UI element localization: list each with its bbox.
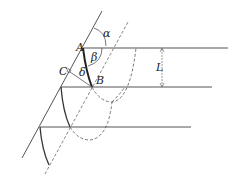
label-alpha: α	[103, 27, 111, 40]
label-delta: δ	[79, 66, 86, 79]
curve-middle	[61, 87, 70, 127]
label-a: A	[75, 41, 84, 54]
label-b: B	[95, 74, 104, 87]
dashed-loop-middle	[70, 102, 112, 140]
label-l: L	[155, 61, 163, 74]
label-c: C	[59, 65, 68, 78]
curve-bottom	[40, 127, 49, 165]
label-beta: β	[90, 51, 97, 64]
geometry-diagram: A C δ B β α L	[0, 0, 240, 186]
